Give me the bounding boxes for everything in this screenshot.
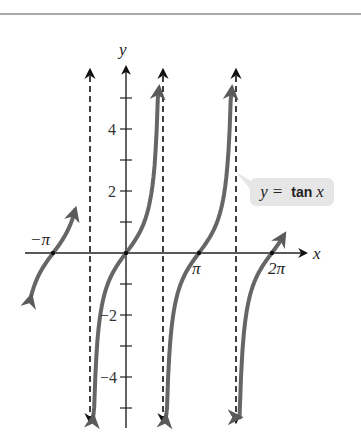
x-axis-label: x — [312, 244, 321, 263]
y-tick-label-2: 2 — [108, 183, 116, 200]
neg-pi-label: −π — [30, 230, 50, 249]
y-tick-label-neg2: −2 — [100, 307, 117, 324]
y-tick-label-neg4: −4 — [100, 369, 117, 386]
callout-fn: tan — [291, 184, 312, 200]
y-axis-label: y — [117, 40, 127, 59]
pi-label: π — [192, 259, 201, 278]
tan-graph: y x −π π 2π 4 2 −2 −4 — [0, 0, 361, 447]
y-tick-label-4: 4 — [108, 121, 116, 138]
callout-x: x — [316, 182, 324, 202]
axes — [25, 67, 306, 428]
callout-equals: = — [273, 182, 283, 202]
function-callout: y = tan x — [250, 178, 334, 206]
callout-y: y — [260, 182, 268, 202]
two-pi-label: 2π — [268, 259, 286, 278]
